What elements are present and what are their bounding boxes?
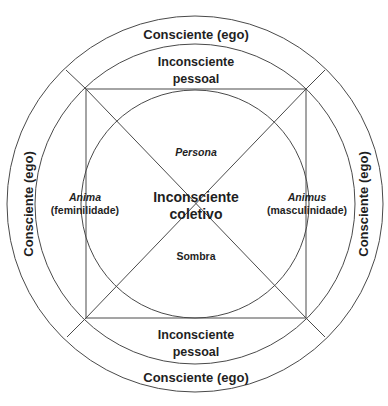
ray-top-left <box>66 70 86 89</box>
label-conscious-right: Consciente (ego) <box>356 151 371 256</box>
label-conscious-bottom: Consciente (ego) <box>143 370 248 385</box>
label-personal-unconscious-bottom-2: pessoal <box>173 345 220 359</box>
label-anima-desc: (feminilidade) <box>51 204 119 216</box>
label-persona: Persona <box>175 146 217 158</box>
ray-bottom-right <box>306 318 325 337</box>
ray-top-right <box>306 70 325 89</box>
psyche-diagram: Consciente (ego) Consciente (ego) Consci… <box>0 0 388 406</box>
label-conscious-left: Consciente (ego) <box>21 151 36 256</box>
ray-bottom-left <box>67 318 86 337</box>
label-personal-unconscious-bottom-1: Inconsciente <box>158 328 234 342</box>
label-anima: Anima <box>68 191 101 203</box>
label-personal-unconscious-top-1: Inconsciente <box>158 55 234 69</box>
label-conscious-top: Consciente (ego) <box>143 27 248 42</box>
label-animus-desc: (masculinidade) <box>267 204 347 216</box>
label-animus: Animus <box>287 191 327 203</box>
label-collective-unconscious-1: Inconsciente <box>153 189 239 205</box>
label-collective-unconscious-2: coletivo <box>170 206 223 222</box>
label-personal-unconscious-top-2: pessoal <box>173 72 220 86</box>
label-sombra: Sombra <box>176 250 215 262</box>
